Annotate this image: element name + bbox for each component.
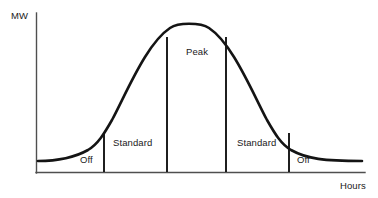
load-curve-path — [38, 24, 362, 161]
band-label-standard-right: Standard — [237, 138, 276, 148]
chart-canvas — [0, 0, 378, 198]
y-axis-title: MW — [11, 11, 28, 21]
band-label-off-left: Off — [80, 155, 93, 165]
band-label-off-right: Off — [297, 155, 310, 165]
band-label-peak: Peak — [186, 47, 208, 57]
load-curve-chart: MW Hours Off Standard Peak Standard Off — [0, 0, 378, 198]
x-axis-title: Hours — [340, 181, 366, 191]
band-label-standard-left: Standard — [113, 138, 152, 148]
